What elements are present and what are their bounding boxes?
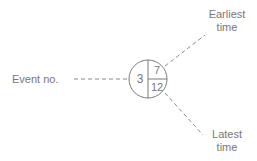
earliest-time-label-line2: time (203, 21, 251, 34)
latest-time-leader (165, 93, 203, 135)
earliest-time-label: Earliest time (203, 8, 251, 34)
latest-time-label: Latest time (204, 128, 250, 154)
latest-time-label-line1: Latest (204, 128, 250, 141)
earliest-time-value: 7 (149, 64, 165, 77)
earliest-time-label-line1: Earliest (203, 8, 251, 21)
latest-time-value: 12 (149, 81, 165, 94)
earliest-time-leader (165, 35, 205, 66)
event-no-label: Event no. (12, 73, 72, 86)
latest-time-label-line2: time (204, 141, 250, 154)
event-number: 3 (134, 73, 146, 86)
